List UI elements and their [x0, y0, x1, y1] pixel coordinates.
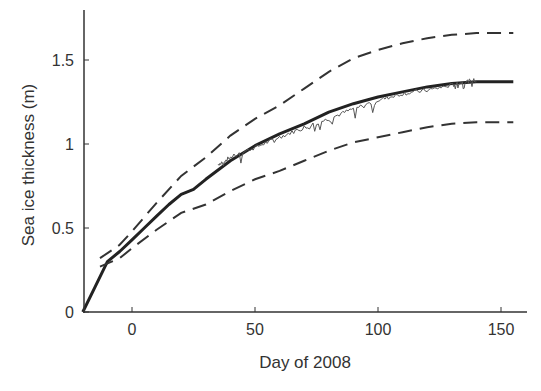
y-tick-label: 1: [65, 136, 74, 153]
x-axis-title: Day of 2008: [259, 353, 351, 372]
y-tick-label: 0: [65, 304, 74, 321]
bound-dashed-line: [100, 122, 513, 266]
y-tick-label: 1.5: [52, 52, 74, 69]
bound-dashed-line: [100, 33, 513, 258]
x-tick-label: 100: [365, 321, 392, 338]
plot-series: [83, 33, 514, 312]
x-tick-label: 50: [246, 321, 264, 338]
sea-ice-thickness-chart: 050100150 00.511.5 Day of 2008 Sea ice t…: [0, 0, 541, 391]
x-tick-label: 0: [128, 321, 137, 338]
x-tick-label: 150: [488, 321, 515, 338]
modeled-thickness-line: [83, 82, 514, 312]
y-axis-title: Sea ice thickness (m): [19, 84, 38, 247]
y-tick-label: 0.5: [52, 220, 74, 237]
observed-noisy-line: [218, 79, 476, 166]
